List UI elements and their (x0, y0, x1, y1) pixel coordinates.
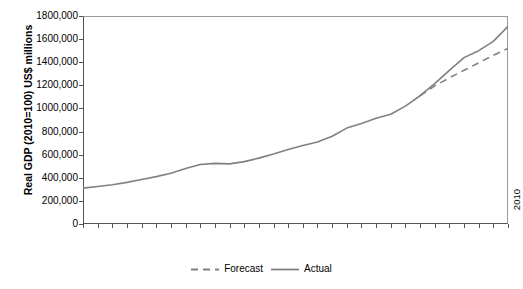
x-tick-mark (200, 224, 201, 228)
gdp-line-chart: Real GDP (2010=100) US$ millions 1800,00… (0, 0, 523, 289)
y-tick-mark (79, 108, 83, 109)
x-tick-mark (449, 224, 450, 228)
x-tick-mark (361, 224, 362, 228)
y-tick-mark (79, 155, 83, 156)
plot-series-svg (83, 16, 508, 224)
x-tick-mark (142, 224, 143, 228)
y-tick-mark (79, 62, 83, 63)
x-tick-mark (508, 224, 509, 228)
x-tick-mark (244, 224, 245, 228)
x-tick-mark (464, 224, 465, 228)
x-tick-mark (493, 224, 494, 228)
x-tick-mark (230, 224, 231, 228)
series-line-forecast (420, 48, 508, 95)
legend-swatch-dashed (191, 265, 219, 274)
x-tick-mark (435, 224, 436, 228)
x-tick-mark (171, 224, 172, 228)
y-tick-mark (79, 16, 83, 17)
x-tick-mark (347, 224, 348, 228)
y-tick-mark (79, 39, 83, 40)
y-tick-mark (79, 132, 83, 133)
x-tick-mark (259, 224, 260, 228)
x-tick-mark (98, 224, 99, 228)
x-tick-mark (391, 224, 392, 228)
y-tick-mark (79, 85, 83, 86)
series-line-actual (83, 26, 508, 188)
x-tick-label: 2010 (512, 189, 522, 229)
chart-legend: Forecast Actual (0, 264, 523, 274)
x-tick-mark (303, 224, 304, 228)
x-tick-mark (274, 224, 275, 228)
legend-item-actual: Actual (271, 264, 332, 274)
x-tick-mark (332, 224, 333, 228)
x-tick-mark (127, 224, 128, 228)
legend-label-forecast: Forecast (224, 264, 263, 274)
x-tick-mark (83, 224, 84, 228)
legend-item-forecast: Forecast (191, 264, 263, 274)
legend-label-actual: Actual (304, 264, 332, 274)
x-tick-mark (112, 224, 113, 228)
legend-swatch-solid (271, 265, 299, 274)
x-tick-mark (376, 224, 377, 228)
x-tick-mark (479, 224, 480, 228)
y-tick-mark (79, 201, 83, 202)
x-tick-mark (420, 224, 421, 228)
x-tick-mark (156, 224, 157, 228)
x-tick-mark (405, 224, 406, 228)
x-tick-mark (288, 224, 289, 228)
x-tick-mark (317, 224, 318, 228)
x-tick-mark (215, 224, 216, 228)
x-tick-mark (186, 224, 187, 228)
y-tick-mark (79, 178, 83, 179)
